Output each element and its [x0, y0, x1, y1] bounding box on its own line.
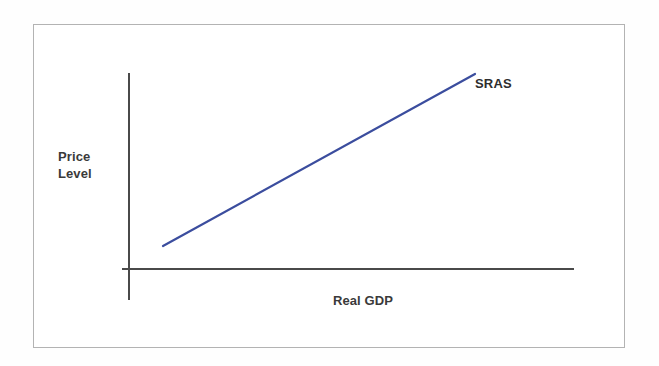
y-axis-label: Price Level	[58, 149, 92, 182]
sras-curve-label: SRAS	[475, 76, 512, 91]
x-axis-label: Real GDP	[268, 293, 458, 308]
plot-area: Price Level Real GDP SRAS	[34, 25, 626, 349]
chart-screenshot: Price Level Real GDP SRAS	[0, 0, 659, 366]
figure-frame: Price Level Real GDP SRAS	[33, 24, 625, 348]
